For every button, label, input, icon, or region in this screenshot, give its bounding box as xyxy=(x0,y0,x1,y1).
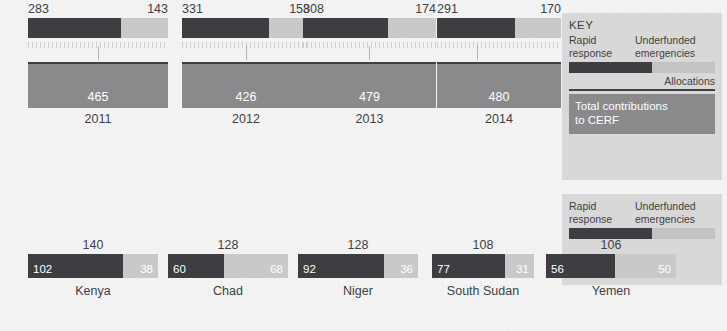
underfunded-value: 50 xyxy=(658,263,671,275)
rapid-response-segment xyxy=(182,18,269,38)
key-contributions-line2: to CERF xyxy=(575,113,709,127)
underfunded-segment: 38 xyxy=(123,254,158,278)
key-rapid-response-line1-secondary: Rapid xyxy=(569,200,629,213)
rapid-response-segment xyxy=(28,18,121,38)
year-group-2012: 331 158 426 2012 xyxy=(182,0,310,126)
rapid-response-value: 308 xyxy=(303,0,324,18)
underfunded-value: 38 xyxy=(140,263,153,275)
country-name: Yemen xyxy=(546,284,676,298)
allocation-bar[interactable] xyxy=(303,18,436,38)
underfunded-segment: 68 xyxy=(224,254,288,278)
country-bar[interactable]: 92 36 xyxy=(298,254,418,278)
year-label: 2014 xyxy=(437,112,561,126)
allocation-labels: 283 143 xyxy=(28,0,168,18)
connector-stem xyxy=(246,46,247,60)
allocation-labels: 331 158 xyxy=(182,0,310,18)
country-group-niger: 128 92 36 Niger xyxy=(298,236,418,298)
key-underfunded-label-secondary: Underfunded emergencies xyxy=(635,200,715,225)
total-contributions-bar[interactable]: 479 xyxy=(303,62,436,108)
underfunded-value: 174 xyxy=(415,0,436,18)
rapid-response-value: 60 xyxy=(173,263,186,275)
rapid-response-segment: 60 xyxy=(168,254,224,278)
total-contributions-value: 426 xyxy=(182,90,310,104)
country-name: Niger xyxy=(298,284,418,298)
key-rapid-response-line2-secondary: response xyxy=(569,213,629,226)
country-bar[interactable]: 102 38 xyxy=(28,254,158,278)
rapid-response-value: 77 xyxy=(437,263,450,275)
total-contributions-bar[interactable]: 426 xyxy=(182,62,310,108)
rapid-response-value: 283 xyxy=(28,0,49,18)
total-contributions-bar[interactable]: 465 xyxy=(28,62,168,108)
allocation-bar[interactable] xyxy=(437,18,561,38)
key-contributions-line1: Total contributions xyxy=(575,99,709,113)
country-group-chad: 128 60 68 Chad xyxy=(168,236,288,298)
rapid-response-value: 102 xyxy=(33,263,52,275)
key-rapid-response-label: Rapid response xyxy=(569,34,629,59)
allocation-labels: 291 170 xyxy=(437,0,561,18)
connector xyxy=(28,38,168,62)
country-name: Chad xyxy=(168,284,288,298)
underfunded-value: 68 xyxy=(270,263,283,275)
key-spacer xyxy=(569,134,715,170)
connector xyxy=(437,38,561,62)
key-swatch-underfunded xyxy=(652,62,715,73)
key-title: KEY xyxy=(569,19,715,31)
country-bar[interactable]: 56 50 xyxy=(546,254,676,278)
country-total-value: 108 xyxy=(432,236,534,254)
country-group-south-sudan: 108 77 31 South Sudan xyxy=(432,236,534,298)
key-underfunded-label: Underfunded emergencies xyxy=(635,34,715,59)
allocation-labels: 308 174 xyxy=(303,0,436,18)
allocation-bar[interactable] xyxy=(28,18,168,38)
country-bar[interactable]: 77 31 xyxy=(432,254,534,278)
year-group-2014: 291 170 480 2014 xyxy=(437,0,561,126)
underfunded-segment: 31 xyxy=(505,254,534,278)
infographic-canvas: 283 143 465 2011 331 158 xyxy=(0,0,727,331)
rapid-response-value: 56 xyxy=(551,263,564,275)
total-contributions-value: 479 xyxy=(303,90,436,104)
connector-stem xyxy=(98,46,99,60)
rapid-response-value: 291 xyxy=(437,0,458,18)
underfunded-value: 36 xyxy=(400,263,413,275)
key-swatch-rapid-response xyxy=(569,62,652,73)
yearly-chart-section: 283 143 465 2011 331 158 xyxy=(0,0,560,140)
connector xyxy=(303,38,436,62)
key-block-primary: KEY Rapid response Underfunded emergenci… xyxy=(562,13,722,180)
connector xyxy=(182,38,310,62)
connector-stem xyxy=(369,46,370,60)
connector-dots xyxy=(437,42,561,48)
country-group-kenya: 140 102 38 Kenya xyxy=(28,236,158,298)
allocation-bar[interactable] xyxy=(182,18,310,38)
year-group-2013: 308 174 479 2013 xyxy=(303,0,436,126)
total-contributions-bar[interactable]: 480 xyxy=(437,62,561,108)
country-total-value: 128 xyxy=(298,236,418,254)
underfunded-value: 31 xyxy=(516,263,529,275)
underfunded-value: 143 xyxy=(147,0,168,18)
key-allocation-swatch xyxy=(569,62,715,73)
connector-stem xyxy=(477,46,478,60)
underfunded-segment xyxy=(121,18,168,38)
country-chart-section: 140 102 38 Kenya 128 60 68 xyxy=(0,236,727,331)
rapid-response-value: 331 xyxy=(182,0,203,18)
key-allocations-caption: Allocations xyxy=(569,75,715,91)
key-rapid-response-line2: response xyxy=(569,47,629,60)
country-total-value: 140 xyxy=(28,236,158,254)
country-total-value: 106 xyxy=(546,236,676,254)
rapid-response-segment xyxy=(437,18,515,38)
country-name: South Sudan xyxy=(432,284,534,298)
key-rapid-response-label-secondary: Rapid response xyxy=(569,200,629,225)
key-underfunded-line2-secondary: emergencies xyxy=(635,213,715,226)
rapid-response-segment: 56 xyxy=(546,254,615,278)
key-underfunded-line1: Underfunded xyxy=(635,34,715,47)
year-label: 2012 xyxy=(182,112,310,126)
rapid-response-segment: 102 xyxy=(28,254,123,278)
underfunded-segment xyxy=(515,18,561,38)
key-underfunded-line1-secondary: Underfunded xyxy=(635,200,715,213)
rapid-response-value: 92 xyxy=(303,263,316,275)
key-underfunded-line2: emergencies xyxy=(635,47,715,60)
rapid-response-segment xyxy=(303,18,388,38)
country-total-value: 128 xyxy=(168,236,288,254)
rapid-response-segment: 92 xyxy=(298,254,384,278)
country-group-yemen: 106 56 50 Yemen xyxy=(546,236,676,298)
underfunded-segment: 50 xyxy=(615,254,676,278)
country-bar[interactable]: 60 68 xyxy=(168,254,288,278)
